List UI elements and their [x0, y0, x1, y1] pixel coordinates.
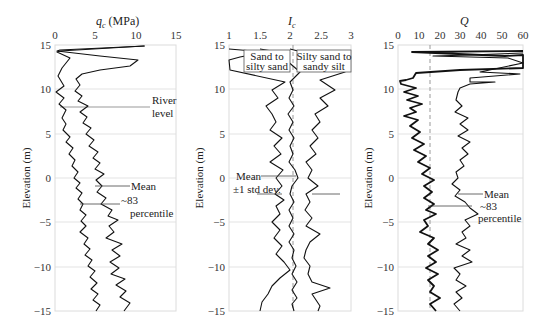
svg-text:−5: −5: [213, 216, 225, 228]
ic-axis-title: Ic: [287, 14, 296, 30]
svg-text:20: 20: [435, 29, 447, 41]
river-label-2: level: [152, 107, 173, 119]
q-83pct-label-2: percentile: [478, 212, 521, 224]
ic-plus-std-curve: [290, 49, 345, 311]
qc-83pct-label-1: ~83: [121, 194, 138, 206]
grid-q: [398, 45, 523, 311]
svg-text:10: 10: [214, 83, 226, 95]
svg-text:5: 5: [389, 128, 395, 140]
svg-text:1.5: 1.5: [253, 29, 267, 41]
q-mean-curve: [400, 51, 523, 311]
svg-text:−5: −5: [382, 216, 394, 228]
qc-axis-title: qc (MPa): [96, 14, 139, 30]
svg-text:50: 50: [497, 29, 509, 41]
svg-text:5: 5: [220, 128, 226, 140]
ic-x-ticks: 1 1.5 2 2.5 3: [226, 29, 354, 41]
river-label-1: River: [152, 94, 177, 106]
panel-ic: Ic 1 1.5 2 2.5 3 15 10 5 0 −5 −10 −15 El…: [193, 14, 354, 317]
svg-text:3: 3: [348, 29, 354, 41]
soil-class-box-2: Silty sand to sandy silt: [296, 50, 352, 72]
panel-qc: qc (MPa) 0 5 10 15 15 10 5 0 −5 −10 −15 …: [20, 14, 182, 317]
ic-y-axis-label: Elevation (m): [193, 147, 206, 208]
svg-text:2.5: 2.5: [314, 29, 328, 41]
svg-text:40: 40: [476, 29, 488, 41]
q-83pct-curve: [433, 53, 523, 311]
svg-text:5: 5: [92, 29, 98, 41]
qc-x-ticks: 0 5 10 15: [52, 29, 182, 41]
qc-y-axis-label: Elevation (m): [20, 147, 33, 208]
svg-text:10: 10: [131, 29, 143, 41]
q-x-ticks: 0 10 20 30 40 50 60: [395, 29, 529, 41]
svg-text:0: 0: [46, 172, 52, 184]
svg-text:5: 5: [46, 128, 52, 140]
svg-text:silty sand: silty sand: [246, 60, 288, 72]
svg-text:1: 1: [226, 29, 232, 41]
q-y-ticks: 15 10 5 0 −5 −10 −15: [377, 39, 395, 317]
svg-text:15: 15: [40, 39, 52, 51]
svg-text:10: 10: [414, 29, 426, 41]
svg-text:−15: −15: [377, 305, 395, 317]
svg-text:−15: −15: [34, 305, 52, 317]
svg-text:0: 0: [395, 29, 401, 41]
svg-text:2: 2: [287, 29, 293, 41]
svg-text:15: 15: [214, 39, 226, 51]
q-mean-label: Mean: [484, 188, 510, 200]
soil-class-box-1: Sand to silty sand: [244, 50, 290, 72]
svg-text:10: 10: [383, 83, 395, 95]
svg-text:60: 60: [518, 29, 530, 41]
svg-text:−10: −10: [208, 261, 226, 273]
q-axis-title: Q: [460, 14, 469, 28]
q-83pct-label-1: ~83: [480, 200, 497, 212]
svg-text:0: 0: [389, 172, 395, 184]
ic-y-ticks: 15 10 5 0 −5 −10 −15: [208, 39, 226, 317]
ic-std-label: ±1 std dev.: [233, 183, 281, 195]
svg-text:15: 15: [171, 29, 183, 41]
svg-text:sandy silt: sandy silt: [303, 60, 345, 72]
svg-text:0: 0: [220, 172, 226, 184]
svg-text:30: 30: [455, 29, 467, 41]
qc-y-ticks: 15 10 5 0 −5 −10 −15: [34, 39, 52, 317]
svg-text:−5: −5: [39, 216, 51, 228]
qc-83pct-label-2: percentile: [130, 207, 173, 219]
svg-text:0: 0: [52, 29, 58, 41]
panel-q: Q 0 10 20 30 40 50 60 15 10 5 0 −5 −10 −…: [362, 14, 529, 317]
ic-mean-curve: [260, 49, 300, 311]
svg-text:−10: −10: [377, 261, 395, 273]
qc-mean-label: Mean: [131, 180, 157, 192]
svg-text:−15: −15: [208, 305, 226, 317]
ic-mean-label: Mean: [236, 170, 262, 182]
q-y-axis-label: Elevation (m): [362, 147, 375, 208]
cpt-profile-figure: qc (MPa) 0 5 10 15 15 10 5 0 −5 −10 −15 …: [0, 0, 544, 336]
svg-text:15: 15: [383, 39, 395, 51]
svg-text:10: 10: [40, 83, 52, 95]
svg-text:−10: −10: [34, 261, 52, 273]
